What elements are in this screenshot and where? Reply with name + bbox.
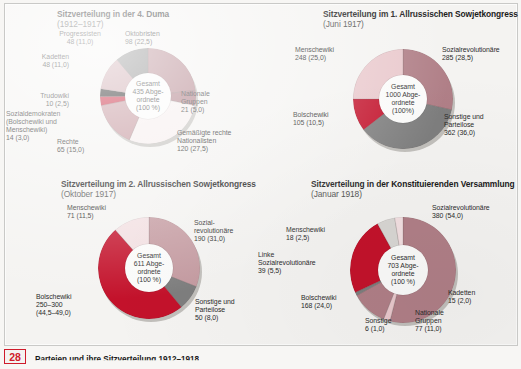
page-root: Sitzverteilung in der 4. Duma (1912–1917… <box>0 0 521 369</box>
chart-duma4-title: Sitzverteilung in der 4. Duma (1912–1917… <box>57 9 247 29</box>
donut-center-label: Gesamt 703 Abge- ordnete (100 %) <box>388 254 419 287</box>
chart-sowjet2-date: (Oktober 1917) <box>61 189 116 199</box>
chart-sowjet1-title: Sitzverteilung im 1. Allrussischen Sowje… <box>323 9 521 29</box>
label-menschewiki: Menschewiki 71 (11,5) <box>67 204 133 220</box>
label-gemaessigte-nationalisten: Gemäßigte rechte Nationalisten 120 (27,5… <box>177 129 255 153</box>
chart-sowjet2: Sitzverteilung im 2. Allrussischen Sowje… <box>61 179 261 199</box>
donut-center: Gesamt 703 Abge- ordnete (100 %) <box>378 245 428 295</box>
chart-sowjet1: Sitzverteilung im 1. Allrussischen Sowje… <box>323 9 521 29</box>
label-rechte: Rechte 65 (15,0) <box>57 138 115 154</box>
donut-center-label: Gesamt 611 Abge- ordnete (100 %) <box>134 252 164 285</box>
figure-caption: Parteien und ihre Sitzverteilung 1912–19… <box>35 355 199 364</box>
chart-konstituierende-title-text: Sitzverteilung in der Konstituierenden V… <box>311 179 514 189</box>
chart-sowjet1-title-text: Sitzverteilung im 1. Allrussischen Sowje… <box>323 9 518 19</box>
label-nationale-gruppen: Nationale Gruppen 21 (5,0) <box>181 90 247 114</box>
label-bolschewiki: Bolschewiki 105 (10,5) <box>293 111 357 127</box>
label-nationale-gruppen: Nationale Gruppen 77 (11,0) <box>415 309 465 333</box>
label-menschewiki: Menschewiki 18 (2,5) <box>286 226 348 242</box>
chart-duma4-date: (1912–1917) <box>57 19 247 29</box>
label-sozialrevolutionaere: Sozialrevolutionäre 285 (28,5) <box>442 46 518 62</box>
donut-center-label: Gesamt 1000 Abge- ordnete (100%) <box>386 83 421 116</box>
chart-konstituierende-title: Sitzverteilung in der Konstituierenden V… <box>311 179 517 199</box>
label-sonstige: Sonstige 6 (1,0) <box>365 317 411 333</box>
label-sonstige-parteilose: Sonstige und Parteilose 362 (36,0) <box>444 113 516 137</box>
label-trudowiki: Trudowiki 10 (2,5) <box>7 92 69 108</box>
chart-sowjet2-title: Sitzverteilung im 2. Allrussischen Sowje… <box>61 179 261 199</box>
label-kadetten: Kadetten 48 (11,0) <box>7 53 69 69</box>
label-kadetten: Kadetten 15 (2,0) <box>448 289 502 305</box>
label-sozialrevolutionaere: Sozial- revolutionäre 190 (31,0) <box>194 219 258 243</box>
label-oktobristen: Oktobristen 98 (22,5) <box>125 30 209 46</box>
figure-panel: Sitzverteilung in der 4. Duma (1912–1917… <box>4 3 518 346</box>
label-linke-sozialrevolutionaere: Linke Sozialrevolutionäre 39 (5,5) <box>258 251 336 275</box>
chart-sowjet1-date: (Juni 1917) <box>323 19 364 29</box>
label-sonstige-parteilose: Sonstige und Parteilose 50 (8,0) <box>195 298 265 322</box>
label-bolschewiki: Bolschewiki 168 (24,0) <box>301 294 365 310</box>
chart-konstituierende-date: (Januar 1918) <box>311 189 362 199</box>
label-bolschewiki: Bolschewiki 250–300 (44,5–49,0) <box>36 293 98 317</box>
chart-sowjet2-donut: Gesamt 611 Abge- ordnete (100 %) <box>98 217 204 323</box>
page-number-badge: 28 <box>4 349 26 364</box>
donut-center: Gesamt 435 Abge- ordnete (100 %) <box>125 73 171 119</box>
chart-konstituierende: Sitzverteilung in der Konstituierenden V… <box>311 179 517 199</box>
chart-duma4: Sitzverteilung in der 4. Duma (1912–1917… <box>57 9 247 29</box>
label-menschewiki: Menschewiki 248 (25,0) <box>295 46 361 62</box>
figure-footer: 28 Parteien und ihre Sitzverteilung 1912… <box>4 348 516 368</box>
donut-center-label: Gesamt 435 Abge- ordnete (100 %) <box>133 80 164 113</box>
donut-center: Gesamt 1000 Abge- ordnete (100%) <box>379 75 427 123</box>
label-progressisten: Progressisten 48 (11,0) <box>45 30 115 46</box>
chart-sowjet1-donut: Gesamt 1000 Abge- ordnete (100%) <box>353 49 457 153</box>
donut-center: Gesamt 611 Abge- ordnete (100 %) <box>125 244 173 292</box>
chart-sowjet2-title-text: Sitzverteilung im 2. Allrussischen Sowje… <box>61 179 256 189</box>
chart-duma4-title-text: Sitzverteilung in der 4. Duma <box>57 9 169 19</box>
label-sozialrevolutionaere: Sozialrevolutionäre 380 (54,0) <box>432 204 512 220</box>
